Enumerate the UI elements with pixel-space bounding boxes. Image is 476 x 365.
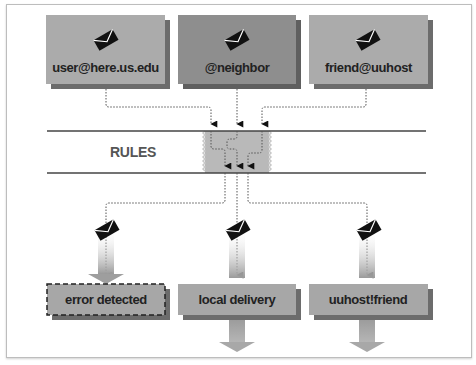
destination-box-error-detected: error detected — [47, 284, 170, 320]
source-label: friend@uuhost — [325, 60, 413, 75]
mail-routing-diagram: user@here.us.edu @neighbor friend@uuhost… — [0, 0, 476, 365]
destination-label: error detected — [65, 292, 147, 307]
source-box-friend-uuhost: friend@uuhost — [309, 15, 433, 89]
destination-label: local delivery — [199, 292, 277, 307]
source-label: user@here.us.edu — [52, 60, 159, 75]
source-label: @neighbor — [205, 60, 270, 75]
destination-box-local-delivery: local delivery — [178, 284, 301, 320]
source-box-user-here: user@here.us.edu — [46, 15, 170, 89]
rules-label: RULES — [110, 144, 156, 160]
destination-label: uuhost!friend — [329, 292, 408, 307]
source-box-neighbor: @neighbor — [178, 15, 301, 89]
destination-box-uuhost-friend: uuhost!friend — [309, 284, 433, 320]
